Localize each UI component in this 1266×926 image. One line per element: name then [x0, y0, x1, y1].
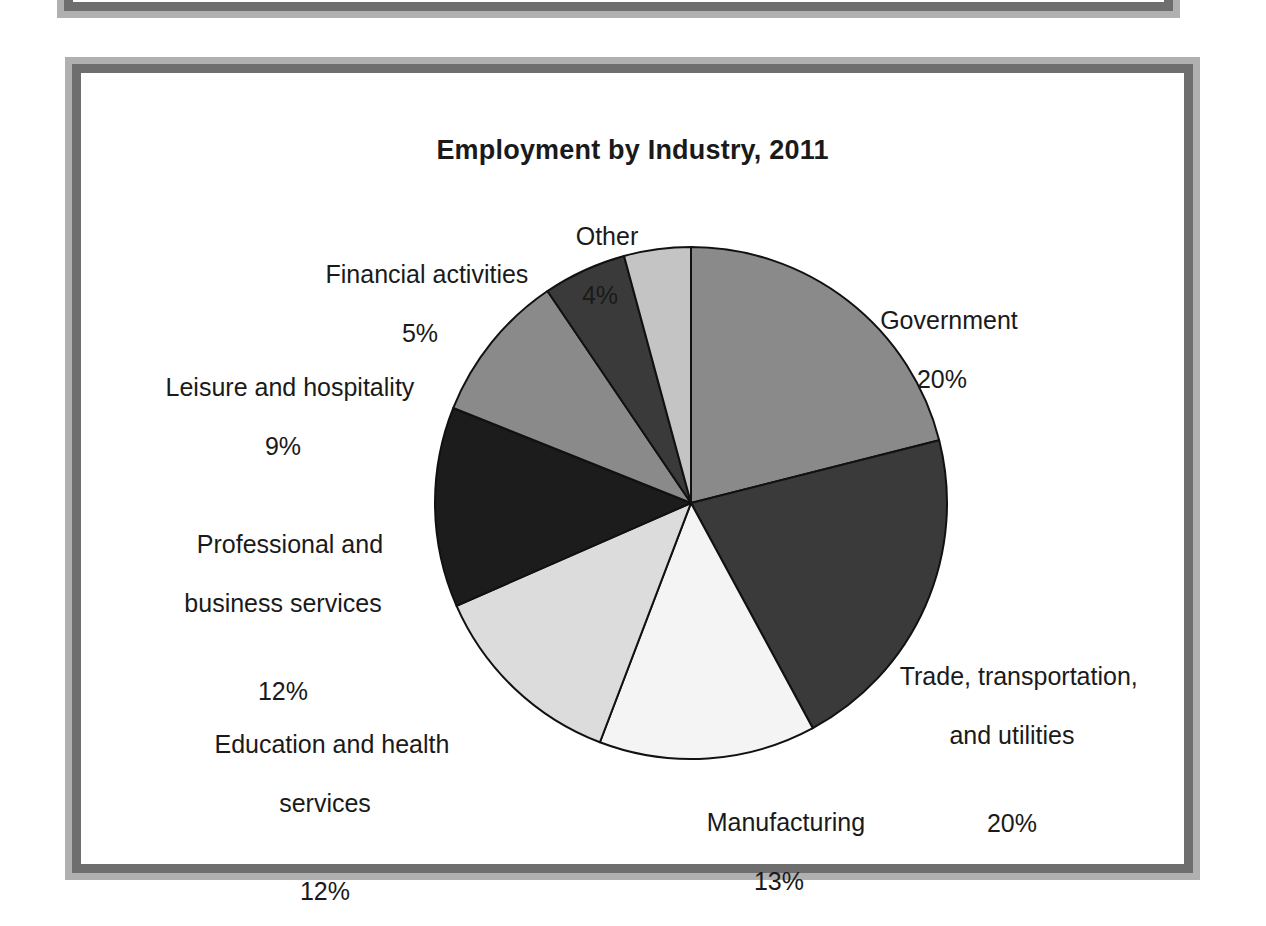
slice-label-government-text: Government: [880, 306, 1018, 334]
slice-label-education-line2: services: [180, 789, 470, 819]
slice-label-trade-line1: Trade, transportation,: [900, 662, 1138, 690]
slice-label-education-and-health-services: Education and health services 12%: [180, 700, 470, 926]
slice-label-manufacturing-percent: 13%: [664, 867, 894, 897]
slice-label-professional-line2: business services: [152, 589, 414, 619]
slice-label-leisure-and-hospitality: Leisure and hospitality 9%: [138, 343, 428, 491]
top-figure-frame-partial: [57, 0, 1180, 18]
slice-label-government-percent: 20%: [828, 365, 1056, 395]
slice-label-government: Government 20%: [828, 276, 1056, 424]
top-figure-frame-partial-inner: [64, 0, 1173, 11]
slice-label-financial-activities-text: Financial activities: [326, 260, 529, 288]
slice-label-manufacturing: Manufacturing 13%: [664, 778, 894, 926]
slice-label-trade-line2: and utilities: [872, 721, 1152, 751]
slice-label-leisure-and-hospitality-percent: 9%: [138, 432, 428, 462]
slice-label-education-line1: Education and health: [214, 730, 449, 758]
slice-label-manufacturing-text: Manufacturing: [707, 808, 865, 836]
slice-label-trade-transportation-utilities: Trade, transportation, and utilities 20%: [872, 632, 1152, 868]
slice-label-trade-percent: 20%: [872, 809, 1152, 839]
slice-label-professional-line1: Professional and: [197, 530, 383, 558]
slice-label-education-percent: 12%: [180, 877, 470, 907]
slice-label-other-text: Other: [576, 222, 639, 250]
chart-title: Employment by Industry, 2011: [81, 135, 1184, 166]
slice-label-leisure-and-hospitality-text: Leisure and hospitality: [166, 373, 415, 401]
